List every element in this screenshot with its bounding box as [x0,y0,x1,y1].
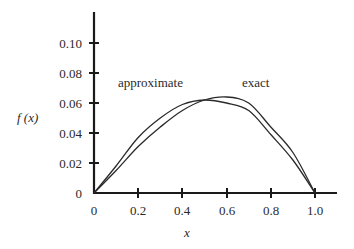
y-tick-labels: 0 0.02 0.04 0.06 0.08 0.10 [59,36,82,201]
x-tick-label: 1.0 [307,203,323,218]
exact-curve [94,97,315,193]
x-tick-label: 0.8 [263,203,279,218]
y-tick-label: 0.02 [59,156,82,171]
x-tick-label: 0 [91,203,98,218]
y-tick-label: 0.08 [59,66,82,81]
exact-label: exact [242,75,270,90]
chart: 0 0.02 0.04 0.06 0.08 0.10 0 0.2 0.4 0.6… [0,0,354,249]
x-tick-label: 0.4 [174,203,191,218]
x-axis-label: x [183,225,190,240]
y-tick-label: 0.04 [59,126,82,141]
approximate-label: approximate [118,75,183,90]
approximate-curve [94,100,315,193]
y-tick-label: 0.10 [59,36,82,51]
y-tick-label: 0 [76,186,83,201]
x-tick-label: 0.6 [219,203,236,218]
y-axis-label: f (x) [17,110,38,125]
x-tick-labels: 0 0.2 0.4 0.6 0.8 1.0 [91,203,323,218]
x-tick-label: 0.2 [130,203,146,218]
y-tick-label: 0.06 [59,96,82,111]
